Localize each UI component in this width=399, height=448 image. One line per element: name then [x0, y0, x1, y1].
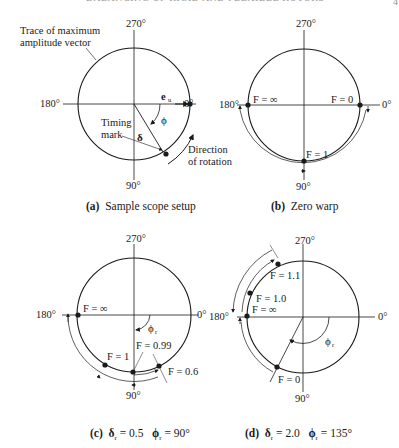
caption-d-delta-value: = 2.0 [273, 427, 300, 439]
timing-mark-dot [163, 151, 168, 156]
f-one-label: F = 1 [306, 149, 328, 160]
timing-label-line1: Timing [101, 117, 132, 128]
label-0: 0° [378, 311, 387, 322]
f-099-dot [130, 369, 135, 374]
trace-label-line2: amplitude vector [20, 37, 91, 48]
caption-a-text: Sample scope setup [105, 200, 196, 212]
lower-sweep-arc [241, 322, 273, 372]
f-inf-dot [244, 313, 249, 318]
f-inf-dot [75, 312, 80, 317]
label-90: 90° [126, 390, 141, 401]
phi-label: ϕ [161, 114, 167, 126]
f-06-label: F = 0.6 [168, 366, 198, 377]
caption-b-text: Zero warp [291, 200, 339, 212]
f-one-label: F = 1 [107, 351, 129, 362]
caption-c-tag: (c) [90, 427, 103, 439]
label-180: 180° [219, 99, 239, 110]
caption-c: (c) δr = 0.5 ϕr = 90° [90, 427, 190, 442]
eu-label: e [161, 91, 166, 102]
caption-c-delta-value: = 0.5 [117, 427, 144, 439]
caption-a-tag: (a) [86, 200, 99, 212]
f-inf-label: F = ∞ [253, 94, 278, 105]
panel-d: 270° 180° 0° 90° ϕ r F = 1.1 F = 1.0 F =… [209, 235, 387, 404]
f-099-label: F = 0.99 [136, 340, 171, 351]
phi-arc [151, 104, 160, 124]
rotation-label-line1: Direction [188, 144, 228, 155]
f-inf-label: F = ∞ [252, 304, 277, 315]
label-180: 180° [40, 98, 60, 109]
eu-subscript: u [168, 96, 172, 103]
phi-r-label: ϕ [148, 322, 154, 334]
caption-b: (b) Zero warp [271, 200, 338, 212]
caption-d-tag: (d) [245, 427, 259, 439]
label-0: 0° [382, 99, 391, 110]
panel-c: 270° 180° 0° 90° ϕ r F = ∞ F = 1 F = 0.9… [36, 233, 206, 401]
label-0: 0° [197, 309, 206, 320]
f-zero-dot [274, 364, 279, 369]
caption-c-phi-value: = 90° [162, 427, 190, 439]
caption-b-tag: (b) [271, 200, 285, 212]
sweep-arrow-mid [98, 376, 100, 378]
label-180: 180° [36, 309, 56, 320]
diagram-canvas: 270° 180° 0° 90° Trace of maximum amplit… [0, 0, 399, 448]
phi-r-subscript: r [155, 328, 158, 335]
trace-leader-line [86, 48, 96, 60]
label-90: 90° [126, 180, 141, 191]
panel-a: 270° 180° 0° 90° Trace of maximum amplit… [20, 18, 233, 191]
trace-label-line1: Trace of maximum [20, 25, 100, 36]
f-099-leader [134, 352, 143, 370]
f-inf-label: F = ∞ [83, 303, 108, 314]
f-zero-dot [357, 102, 362, 107]
caption-d-phi: ϕ [308, 427, 315, 439]
timing-label-line2: mark [101, 129, 123, 140]
label-270: 270° [126, 233, 146, 244]
warp-sweep-arc [240, 110, 366, 163]
sweep-leader [270, 245, 278, 258]
max-vector-dot [187, 101, 192, 106]
delta-line [134, 104, 163, 152]
f-one-dot [102, 362, 107, 367]
label-90: 90° [296, 181, 311, 192]
caption-a: (a) Sample scope setup [86, 200, 196, 212]
panel-b: 270° 180° 0° 90° F = ∞ F = 0 F = 1 [219, 18, 391, 192]
caption-d: (d) δr = 2.0 ϕr = 135° [245, 427, 352, 442]
delta-label: δ [137, 131, 143, 143]
label-270: 270° [296, 18, 316, 29]
phi-r-subscript: r [332, 341, 335, 348]
rotation-label-line2: of rotation [188, 156, 233, 167]
phi-r-label: ϕ [325, 335, 331, 347]
label-270: 270° [126, 18, 146, 29]
f-zero-label: F = 0 [331, 94, 353, 105]
label-90: 90° [295, 393, 310, 404]
caption-d-phi-value: = 135° [318, 427, 352, 439]
label-180: 180° [209, 311, 229, 322]
f-11-dot [275, 261, 280, 266]
f-11-label: F = 1.1 [270, 270, 300, 281]
f-zero-label: F = 0 [278, 374, 300, 385]
f-10-label: F = 1.0 [256, 293, 286, 304]
f-inf-dot [245, 102, 250, 107]
f-10-dot [247, 290, 252, 295]
label-270: 270° [295, 235, 315, 246]
